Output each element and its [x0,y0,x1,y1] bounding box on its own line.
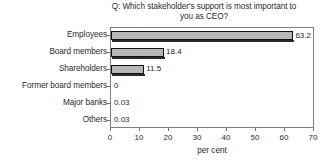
x-tick-label-70: 70 [300,132,326,143]
x-tick-mark [226,128,227,131]
bar-row: 0.03 [111,112,313,128]
y-axis-label-others: Others [0,114,107,125]
x-tick-label-40: 40 [213,132,239,143]
x-tick-mark [255,128,256,131]
x-tick-label-20: 20 [155,132,181,143]
x-tick-label-30: 30 [184,132,210,143]
y-axis-label-former-board-members: Former board members [0,80,107,91]
y-axis-category-labels: Employees Board members Shareholders For… [0,27,107,128]
bar-baseline [112,57,165,59]
y-axis-label-board-members: Board members [0,46,107,57]
bar-value-shareholders: 11.5 [146,63,161,75]
bar-value-major-banks: 0.03 [114,97,130,109]
x-tick-mark [313,128,314,131]
bar-board-members [111,48,164,57]
bar-value-others: 0.03 [114,114,130,126]
bar-baseline [112,74,145,76]
bar-row: 18.4 [111,45,313,62]
bar-row: 0 [111,79,313,96]
x-tick-mark [197,128,198,131]
bar-value-board-members: 18.4 [166,46,182,58]
x-tick-mark [168,128,169,131]
bar-row: 0.03 [111,95,313,112]
x-tick-label-60: 60 [271,132,297,143]
x-tick-mark [110,128,111,131]
x-tick-mark [284,128,285,131]
bar-value-former-board-members: 0 [114,80,118,92]
y-axis-label-major-banks: Major banks [0,97,107,108]
bar-row: 11.5 [111,62,313,79]
x-tick-mark [139,128,140,131]
bar-baseline [112,40,294,42]
x-tick-label-10: 10 [126,132,152,143]
x-tick-label-50: 50 [242,132,268,143]
y-axis-label-shareholders: Shareholders [0,63,107,74]
chart-figure: Q: Which stakeholder's support is most i… [0,0,329,162]
bar-employees [111,31,293,40]
bar-shareholders [111,65,144,74]
bar-value-employees: 63.2 [295,30,311,42]
x-axis-label: per cent [110,145,314,156]
plot-area: 63.2 18.4 11.5 0 0.03 0.03 [110,27,314,128]
y-axis-label-employees: Employees [0,29,107,40]
x-tick-label-0: 0 [97,132,123,143]
bar-row: 63.2 [111,28,313,45]
chart-title: Q: Which stakeholder's support is most i… [96,2,312,23]
